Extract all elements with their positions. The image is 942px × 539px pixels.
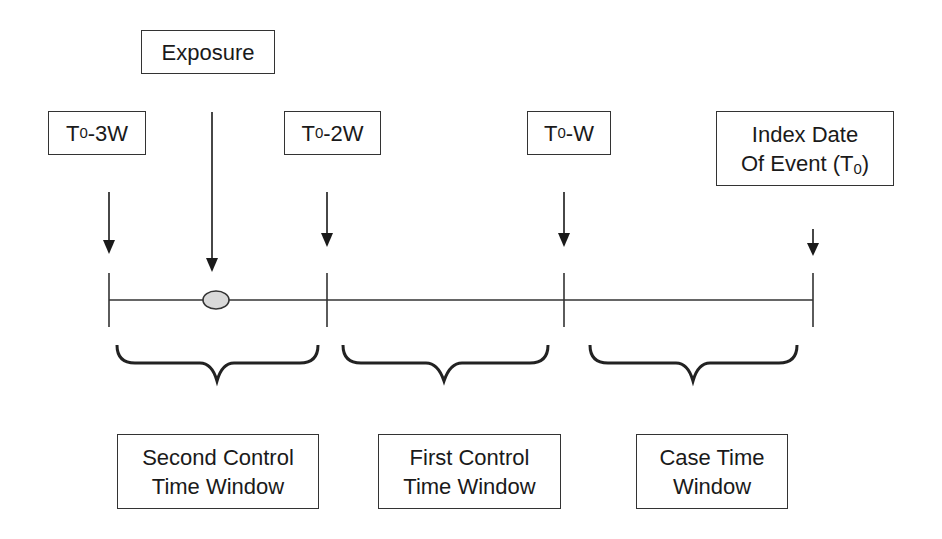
brace-case — [590, 345, 797, 381]
arrow-t0-w — [558, 192, 570, 247]
t0-3w-label-box: T0-3W — [48, 111, 146, 155]
arrow-t0 — [807, 229, 819, 256]
exposure-label-box: Exposure — [141, 30, 275, 74]
brace-first-control — [343, 345, 548, 381]
index-date-line2-prefix: Of Event (T — [741, 151, 853, 176]
exposure-label: Exposure — [162, 38, 255, 67]
case-window-box: Case Time Window — [636, 434, 788, 509]
exposure-arrow — [206, 112, 218, 272]
second-control-window-box: Second Control Time Window — [117, 434, 319, 509]
t0-3w-suffix: -3W — [88, 119, 128, 148]
brace-second-control — [117, 345, 318, 381]
t0-2w-prefix: T — [301, 119, 314, 148]
index-date-label-box: Index Date Of Event (T0) — [716, 111, 894, 186]
exposure-marker — [203, 291, 229, 309]
t0-2w-label-box: T0-2W — [284, 111, 381, 155]
arrow-t0-2w — [321, 192, 333, 247]
index-date-line2-sub: 0 — [853, 160, 861, 177]
first-control-line1: First Control — [410, 443, 530, 472]
first-control-window-box: First Control Time Window — [378, 434, 561, 509]
case-window-line1: Case Time — [659, 443, 764, 472]
index-date-line2: Of Event (T0) — [741, 149, 869, 178]
first-control-line2: Time Window — [403, 472, 535, 501]
case-window-line2: Window — [673, 472, 751, 501]
second-control-line1: Second Control — [142, 443, 294, 472]
t0-2w-suffix: -2W — [323, 119, 363, 148]
t0-3w-prefix: T — [66, 119, 79, 148]
t0-w-label-box: T0-W — [527, 111, 611, 155]
t0-w-prefix: T — [544, 119, 557, 148]
index-date-line2-suffix: ) — [862, 151, 869, 176]
index-date-line1: Index Date — [752, 120, 858, 149]
second-control-line2: Time Window — [152, 472, 284, 501]
arrow-t0-3w — [103, 192, 115, 254]
t0-w-suffix: -W — [566, 119, 594, 148]
